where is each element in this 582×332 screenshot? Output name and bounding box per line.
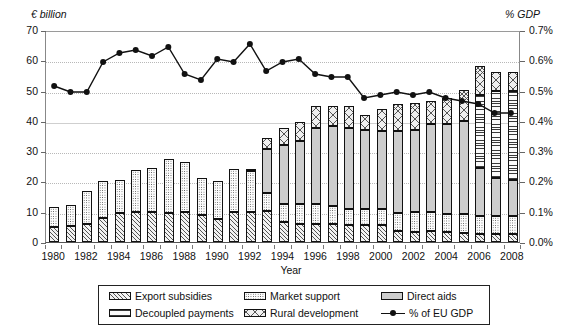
bar-segment xyxy=(377,131,387,208)
bar-segment xyxy=(426,101,436,124)
y-axis-tick-label: 70 xyxy=(0,25,38,35)
x-axis-tickmark xyxy=(438,245,439,249)
bar-column xyxy=(197,32,207,242)
right-axis-title: % GDP xyxy=(505,8,540,20)
y-axis-tick-label: 30 xyxy=(0,146,38,156)
y2-axis-tickmark xyxy=(520,122,525,123)
bar-segment xyxy=(360,115,370,130)
bar-segment xyxy=(377,225,387,242)
bar-column xyxy=(491,32,501,242)
bar-segment xyxy=(295,122,305,140)
bar-segment xyxy=(115,213,125,242)
bar-segment xyxy=(197,215,207,242)
bar-segment xyxy=(491,234,501,242)
bar-segment xyxy=(475,168,485,216)
bar-segment xyxy=(393,104,403,131)
bar-segment xyxy=(262,193,272,211)
legend-label: Rural development xyxy=(270,307,358,319)
x-axis-tick-label: 1986 xyxy=(140,250,163,262)
x-axis-tick-label: 1980 xyxy=(42,250,65,262)
bar-segment xyxy=(508,234,518,242)
y-axis-tickmark xyxy=(41,152,46,153)
bar-segment xyxy=(377,109,387,132)
bar-segment xyxy=(246,212,256,242)
y2-axis-tick-label: 0.0% xyxy=(529,237,575,247)
bar-segment xyxy=(410,130,420,212)
legend-label: % of EU GDP xyxy=(409,307,473,319)
bar-segment xyxy=(344,106,354,129)
x-axis-tickmark xyxy=(61,245,62,249)
bar-segment xyxy=(82,191,92,224)
x-axis-tickmark xyxy=(127,245,128,249)
x-axis-tickmark xyxy=(373,245,374,249)
x-axis-tickmark xyxy=(209,245,210,249)
bar-column xyxy=(475,32,485,242)
bar-segment xyxy=(98,181,108,217)
bar-segment xyxy=(491,216,501,234)
bar-column xyxy=(82,32,92,242)
x-axis-tick-label: 1984 xyxy=(107,250,130,262)
x-axis-tick-label: 1988 xyxy=(173,250,196,262)
legend-item[interactable]: Direct aids xyxy=(381,290,457,302)
bar-segment xyxy=(393,213,403,231)
bar-segment xyxy=(279,204,289,222)
bar-segment xyxy=(328,106,338,126)
legend-label: Direct aids xyxy=(407,290,457,302)
bar-column xyxy=(426,32,436,242)
y2-axis-tick-label: 0.3% xyxy=(529,146,575,156)
bar-segment xyxy=(426,231,436,242)
bar-segment xyxy=(213,219,223,242)
bar-segment xyxy=(279,222,289,242)
y2-axis-tick-label: 0.5% xyxy=(529,86,575,96)
bar-column xyxy=(508,32,518,242)
bar-segment xyxy=(246,171,256,212)
legend-label: Export subsidies xyxy=(135,290,212,302)
bar-segment xyxy=(393,231,403,242)
x-axis-tick-labels: 1980198219841986198819901992199419961998… xyxy=(0,250,582,264)
x-axis-title: Year xyxy=(0,264,582,276)
bar-segment xyxy=(328,224,338,242)
y-axis-tick-label: 50 xyxy=(0,86,38,96)
x-axis-tickmark xyxy=(389,245,390,249)
bar-segment xyxy=(328,126,338,206)
y2-axis-tick-label: 0.1% xyxy=(529,207,575,217)
legend-item[interactable]: Market support xyxy=(244,290,340,302)
y-axis-tick-label: 10 xyxy=(0,207,38,217)
bar-segment xyxy=(410,232,420,242)
legend-item[interactable]: Rural development xyxy=(244,307,358,319)
y2-axis-tickmark xyxy=(520,182,525,183)
bar-column xyxy=(131,32,141,242)
bar-segment xyxy=(49,227,59,242)
bar-segment xyxy=(508,216,518,234)
legend-swatch-icon xyxy=(244,309,266,317)
y-axis-tick-label: 20 xyxy=(0,176,38,186)
bar-column xyxy=(98,32,108,242)
x-axis-tick-label: 1996 xyxy=(304,250,327,262)
x-axis-tickmark xyxy=(471,245,472,249)
bar-segment xyxy=(491,178,501,216)
x-axis-tickmark xyxy=(258,245,259,249)
legend-item[interactable]: Decoupled payments xyxy=(109,307,234,319)
x-axis-tick-label: 1998 xyxy=(336,250,359,262)
bar-column xyxy=(164,32,174,242)
legend-label: Decoupled payments xyxy=(135,307,234,319)
bar-column xyxy=(49,32,59,242)
bar-segment xyxy=(475,234,485,242)
x-axis-tickmark xyxy=(176,245,177,249)
legend-item[interactable]: % of EU GDP xyxy=(381,307,473,319)
bar-segment xyxy=(344,209,354,226)
bar-segment xyxy=(459,233,469,242)
bar-segment xyxy=(131,212,141,242)
legend-item[interactable]: Export subsidies xyxy=(109,290,212,302)
bar-segment xyxy=(311,224,321,242)
bar-segment xyxy=(262,211,272,242)
y2-axis-tickmark xyxy=(520,152,525,153)
bar-segment xyxy=(459,121,469,213)
bar-column xyxy=(442,32,452,242)
bar-segment xyxy=(229,212,239,242)
legend-swatch-icon xyxy=(109,309,131,317)
bar-segment xyxy=(115,180,125,213)
bar-column xyxy=(295,32,305,242)
bar-column xyxy=(328,32,338,242)
bar-segment xyxy=(426,124,436,212)
